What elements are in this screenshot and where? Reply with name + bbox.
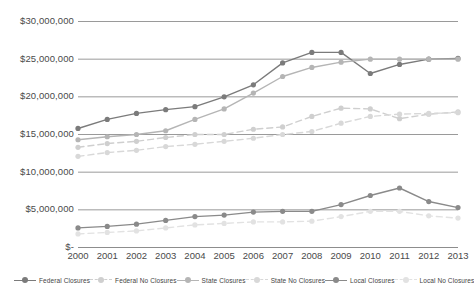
data-point — [163, 218, 168, 223]
data-point — [309, 65, 314, 70]
data-point — [105, 230, 110, 235]
data-point — [280, 74, 285, 79]
legend-label: Federal Closures — [39, 277, 90, 284]
data-point — [222, 213, 227, 218]
data-point — [222, 221, 227, 226]
data-point — [426, 213, 431, 218]
legend-item-local-no-closures[interactable]: Local No Closures — [395, 276, 474, 284]
legend-item-federal-no-closures[interactable]: Federal No Closures — [90, 276, 177, 284]
data-point — [309, 219, 314, 224]
data-point — [309, 50, 314, 55]
data-point — [251, 209, 256, 214]
data-point — [397, 112, 402, 117]
x-axis-tick-label: 2012 — [414, 251, 444, 261]
y-axis-tick-label: $10,000,000 — [6, 167, 74, 177]
data-point — [280, 60, 285, 65]
data-point — [105, 141, 110, 146]
y-axis-tick-label: $30,000,000 — [6, 16, 74, 26]
x-axis-tick-label: 2007 — [268, 251, 298, 261]
data-point — [368, 209, 373, 214]
data-point — [368, 106, 373, 111]
data-point — [251, 90, 256, 95]
data-point — [251, 127, 256, 132]
data-point — [192, 142, 197, 147]
data-point — [455, 110, 460, 115]
data-point — [163, 107, 168, 112]
x-axis-tick-label: 2002 — [121, 251, 151, 261]
data-point — [338, 106, 343, 111]
data-point — [426, 111, 431, 116]
data-point — [338, 121, 343, 126]
data-point — [192, 132, 197, 137]
data-point — [75, 126, 80, 131]
data-point — [134, 111, 139, 116]
data-point — [251, 82, 256, 87]
data-point — [251, 136, 256, 141]
data-point — [192, 222, 197, 227]
data-point — [75, 137, 80, 142]
data-point — [309, 114, 314, 119]
data-point — [105, 117, 110, 122]
series-federal-no-closures — [75, 106, 460, 150]
series-local-closures — [75, 185, 460, 230]
legend-label: Local Closures — [350, 277, 394, 284]
data-point — [163, 144, 168, 149]
y-axis-tick-label: $20,000,000 — [6, 91, 74, 101]
x-axis-tick-label: 2010 — [355, 251, 385, 261]
x-axis-tick-label: 2004 — [180, 251, 210, 261]
legend-label: State No Closures — [271, 277, 325, 284]
legend-item-federal-closures[interactable]: Federal Closures — [14, 276, 90, 284]
data-point — [368, 114, 373, 119]
legend-swatch-icon — [177, 276, 199, 284]
data-point — [338, 214, 343, 219]
data-point — [75, 154, 80, 159]
data-point — [222, 106, 227, 111]
x-axis-tick-label: 2013 — [443, 251, 473, 261]
x-axis-tick-label: 2009 — [326, 251, 356, 261]
data-point — [251, 219, 256, 224]
data-point — [309, 209, 314, 214]
data-point — [134, 139, 139, 144]
data-point — [105, 134, 110, 139]
series-state-closures — [75, 57, 460, 143]
data-point — [397, 185, 402, 190]
data-point — [426, 199, 431, 204]
legend-swatch-icon — [14, 276, 36, 284]
x-axis-tick-label: 2011 — [385, 251, 415, 261]
x-axis-tick-label: 2008 — [297, 251, 327, 261]
data-point — [163, 128, 168, 133]
data-point — [280, 219, 285, 224]
legend-swatch-icon — [246, 276, 268, 284]
data-point — [309, 129, 314, 134]
data-point — [75, 225, 80, 230]
data-point — [368, 193, 373, 198]
legend-label: Federal No Closures — [115, 277, 177, 284]
data-point — [368, 57, 373, 62]
legend-swatch-icon — [395, 276, 417, 284]
chart-legend: Federal ClosuresFederal No ClosuresState… — [14, 272, 458, 288]
data-point — [134, 228, 139, 233]
data-point — [397, 209, 402, 214]
y-axis-tick-label: $25,000,000 — [6, 54, 74, 64]
data-point — [338, 50, 343, 55]
data-point — [192, 214, 197, 219]
data-point — [280, 124, 285, 129]
series-local-no-closures — [75, 209, 460, 237]
data-point — [134, 132, 139, 137]
data-point — [105, 224, 110, 229]
data-point — [397, 116, 402, 121]
data-point — [280, 132, 285, 137]
y-axis-tick-label: $5,000,000 — [6, 204, 74, 214]
data-point — [368, 71, 373, 76]
legend-item-state-no-closures[interactable]: State No Closures — [246, 276, 325, 284]
data-point — [75, 231, 80, 236]
legend-label: Local No Closures — [420, 277, 474, 284]
series-layer — [75, 50, 460, 237]
x-axis-tick-label: 2005 — [209, 251, 239, 261]
data-point — [163, 135, 168, 140]
legend-item-state-closures[interactable]: State Closures — [177, 276, 246, 284]
legend-item-local-closures[interactable]: Local Closures — [325, 276, 394, 284]
data-point — [338, 202, 343, 207]
data-point — [338, 60, 343, 65]
